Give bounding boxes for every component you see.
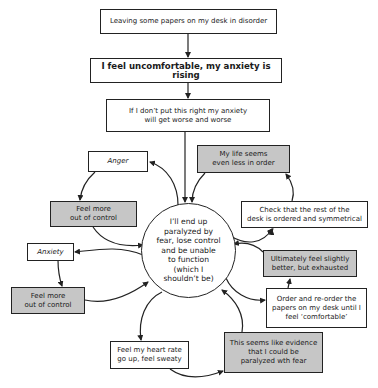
- node-heart-rate: Feel my heart rate go up, feel sweaty: [110, 341, 189, 369]
- node-evidence: This seems like evidence that I could be…: [224, 332, 323, 373]
- node-trigger: Leaving some papers on my desk in disord…: [100, 9, 277, 34]
- node-anger: Anger: [88, 151, 148, 172]
- node-center-fear: I’ll end up paralyzed by fear, lose cont…: [141, 203, 236, 298]
- node-feeling: I feel uncomfortable, my anxiety is risi…: [90, 58, 282, 83]
- node-out-of-control-1: Feel more out of control: [50, 201, 137, 227]
- node-out-of-control-2: Feel more out of control: [11, 287, 85, 314]
- node-anxiety: Anxiety: [27, 243, 74, 261]
- anxiety-cycle-diagram: Leaving some papers on my desk in disord…: [0, 0, 378, 388]
- node-thought: If I don’t put this right my anxiety wil…: [106, 99, 270, 132]
- node-reorder: Order and re-order the papers on my desk…: [266, 288, 367, 328]
- node-check-desk: Check that the rest of the desk is order…: [241, 201, 368, 228]
- node-my-life: My life seems even less in order: [197, 145, 290, 173]
- node-ultimately: Ultimately feel slightly better, but exh…: [263, 250, 357, 277]
